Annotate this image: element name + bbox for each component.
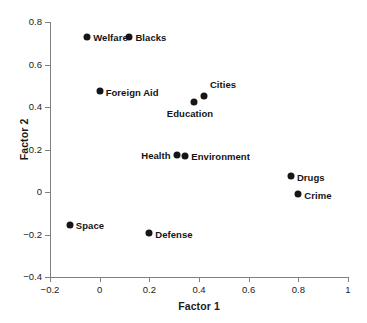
x-tick-mark [100,277,101,282]
data-point-marker [191,98,198,105]
y-tick-mark [45,22,50,23]
x-tick-mark [298,277,299,282]
data-point-label: Health [141,150,170,161]
scatter-plot-figure: Factor 2 0.80.60.40.20−0.2−0.4 −0.200.20… [0,0,367,323]
data-point-label: Foreign Aid [106,86,159,97]
x-tick-label: 0.6 [242,284,255,295]
data-point-marker [66,221,73,228]
x-tick-mark [149,277,150,282]
data-point-marker [84,33,91,40]
data-point-marker [200,93,207,100]
y-tick-mark [45,192,50,193]
data-point-marker [295,191,302,198]
x-tick-label: 0 [97,284,102,295]
y-tick-label: 0.4 [8,101,42,112]
data-point-marker [96,88,103,95]
data-point-label: Environment [191,151,250,162]
data-point-label: Welfare [93,32,128,43]
x-tick-mark [348,277,349,282]
y-tick-label: −0.2 [8,229,42,240]
y-tick-label: 0.6 [8,59,42,70]
x-tick-label: 0.4 [192,284,205,295]
y-tick-label: 0.8 [8,16,42,27]
data-point-marker [182,152,189,159]
data-point-marker [126,33,133,40]
data-point-label: Defense [155,228,192,239]
y-tick-mark [45,150,50,151]
y-tick-label: 0.2 [8,144,42,155]
data-point-label: Cities [210,79,236,90]
x-tick-label: 0.2 [143,284,156,295]
x-tick-label: 0.8 [292,284,305,295]
data-point-label: Space [76,220,104,231]
x-tick-mark [249,277,250,282]
x-tick-mark [50,277,51,282]
data-point-label: Blacks [135,32,166,43]
y-axis-line [50,22,51,278]
y-tick-label: 0 [8,186,42,197]
x-tick-label: 1 [345,284,350,295]
x-axis-title: Factor 1 [50,300,348,312]
y-tick-mark [45,235,50,236]
data-point-marker [287,173,294,180]
data-point-label: Drugs [297,171,325,182]
x-tick-mark [199,277,200,282]
data-point-marker [173,151,180,158]
y-tick-mark [45,65,50,66]
data-point-label: Education [167,108,213,119]
data-point-marker [146,230,153,237]
y-tick-mark [45,107,50,108]
data-point-label: Crime [304,189,331,200]
x-tick-label: −0.2 [41,284,60,295]
y-tick-label: −0.4 [8,271,42,282]
